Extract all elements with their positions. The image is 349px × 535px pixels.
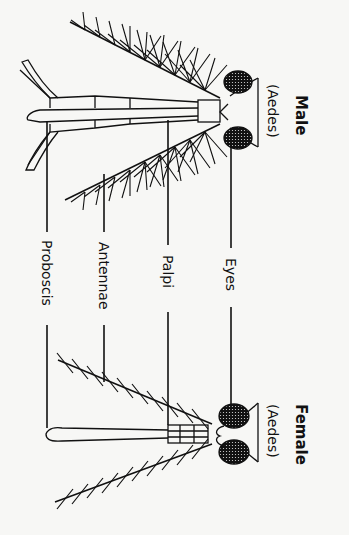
female-eye-upper: [219, 404, 249, 428]
mosquito-head-diagram: Male (Aedes) Female (Aedes) Eyes Palpi A…: [0, 0, 349, 535]
label-palpi: Palpi: [160, 255, 176, 288]
female-eye-lower: [219, 440, 249, 464]
female-head-drawing: [46, 403, 258, 464]
male-subtitle: (Aedes): [265, 84, 281, 138]
male-head-drawing: [20, 60, 258, 170]
male-eye-upper: [224, 71, 252, 93]
male-title: Male: [292, 95, 310, 135]
female-subtitle: (Aedes): [265, 404, 281, 458]
label-antennae: Antennae: [96, 242, 112, 310]
label-proboscis: Proboscis: [39, 240, 55, 306]
label-eyes: Eyes: [223, 258, 239, 291]
male-eye-lower: [224, 127, 252, 149]
female-title: Female: [292, 404, 310, 465]
